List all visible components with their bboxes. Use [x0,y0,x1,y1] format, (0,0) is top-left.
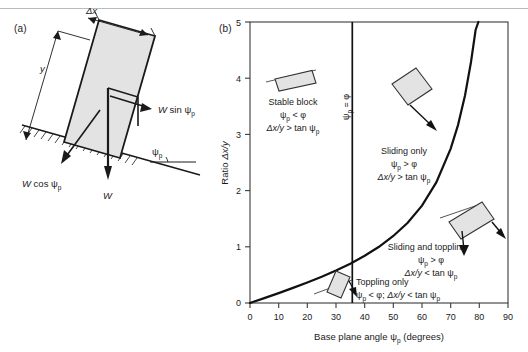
panel-b: 0 1 2 3 4 5 0 10 20 30 40 50 60 [0,0,528,352]
plot-frame [250,22,508,303]
region-sliding-only: Sliding only ψp > φ Δx/y > tan ψp [377,68,437,185]
sliding-only-title: Sliding only [381,146,428,156]
y-axis-title: Ratio Δx/y [219,140,230,185]
sliding-toppling-cond2: Δx/y < tan ψp [404,268,458,281]
sliding-only-cond2: Δx/y > tan ψp [377,172,431,185]
x-axis-title: Base plane angle ψp (degrees) [314,331,444,345]
svg-text:2: 2 [236,186,241,196]
stable-block-icon [266,70,316,91]
svg-text:90: 90 [503,312,513,322]
svg-text:4: 4 [236,74,241,84]
svg-text:30: 30 [331,312,341,322]
tan-curve [250,22,478,303]
y-axis-ticks [245,22,250,303]
svg-text:0: 0 [236,298,241,308]
region-stable-block: Stable block ψp < φ Δx/y > tan ψp [266,70,320,136]
svg-text:40: 40 [360,312,370,322]
svg-text:10: 10 [274,312,284,322]
svg-text:1: 1 [236,242,241,252]
svg-text:20: 20 [302,312,312,322]
stable-block-cond2: Δx/y > tan ψp [266,123,320,136]
toppling-only-icon [314,271,357,298]
svg-text:5: 5 [236,18,241,28]
region-sliding-and-toppling: Sliding and toppling ψp > φ Δx/y < tan ψ… [388,202,506,281]
sliding-toppling-cond1: ψp > φ [418,255,444,268]
sliding-only-icon [392,68,437,131]
sliding-toppling-title: Sliding and toppling [388,242,467,252]
svg-text:80: 80 [474,312,484,322]
toppling-only-title: Toppling only [356,277,409,287]
x-axis-tick-labels: 0 10 20 30 40 50 60 70 80 90 [247,312,513,322]
svg-text:0: 0 [247,312,252,322]
y-axis-tick-labels: 0 1 2 3 4 5 [236,18,241,309]
svg-text:70: 70 [446,312,456,322]
figure-root: (a) (b) [0,0,528,352]
svg-text:3: 3 [236,130,241,140]
toppling-only-cond: ψp < φ; Δx/y < tan ψp [356,290,440,303]
x-axis-ticks [250,303,508,308]
svg-text:50: 50 [388,312,398,322]
sliding-only-cond1: ψp > φ [391,159,417,172]
stable-block-title: Stable block [268,97,318,107]
svg-text:60: 60 [417,312,427,322]
stable-block-cond1: ψp < φ [280,110,306,123]
